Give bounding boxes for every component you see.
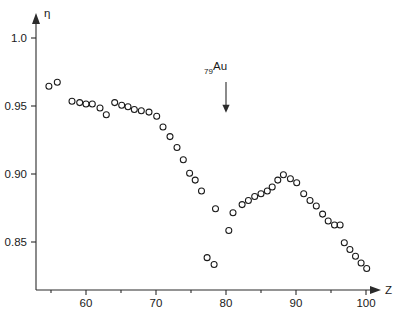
data-point [320,211,326,217]
y-axis-tick-label: 1.0 [11,32,27,44]
data-point [358,260,364,266]
data-point [341,240,347,246]
y-axis-arrowhead [32,13,40,24]
y-axis-tick-label: 0.95 [5,100,27,112]
data-point [46,83,52,89]
data-point [146,109,152,115]
data-point [138,108,144,114]
x-axis-tick-label: 60 [80,297,93,309]
data-point [131,106,137,112]
annotation-arrowhead [222,105,229,113]
data-point [97,105,103,111]
data-point [294,180,300,186]
data-point [112,100,118,106]
data-point [230,210,236,216]
data-point [347,246,353,252]
data-point [269,184,275,190]
data-point [275,177,281,183]
data-point [280,172,286,178]
x-axis-arrowhead [370,286,381,294]
data-point [154,113,160,119]
x-axis-title: Z [385,284,392,296]
data-point [125,104,131,110]
x-axis-tick-label: 90 [290,297,303,309]
annotation-label: Au [213,60,227,72]
x-axis-tick-label: 70 [150,297,163,309]
data-point [180,157,186,163]
data-point [119,102,125,108]
x-axis-tick-label: 100 [356,297,375,309]
data-point [187,170,193,176]
data-point [160,124,166,130]
data-point [258,191,264,197]
data-point [245,198,251,204]
data-point [211,261,217,267]
data-point [307,198,313,204]
data-point [301,191,307,197]
data-point [325,218,331,224]
data-point [204,255,210,261]
data-point [167,134,173,140]
x-axis-tick-label: 80 [220,297,233,309]
data-point [83,101,89,107]
data-point [199,188,205,194]
data-point [213,206,219,212]
data-point [89,101,95,107]
data-point [313,203,319,209]
data-point [69,98,75,104]
data-point [77,100,83,106]
chart-canvas: ηZ607080901000.850.900.951.079Au [0,0,399,314]
y-axis-tick-label: 0.85 [5,236,27,248]
data-point [226,227,232,233]
data-point [364,266,370,272]
y-axis-tick-label: 0.90 [5,168,27,180]
data-point [54,79,60,85]
data-point [353,253,359,259]
y-axis-title: η [44,7,50,19]
data-point [239,202,245,208]
data-point [174,144,180,150]
data-point [103,112,109,118]
data-point [252,193,258,199]
data-point [192,177,198,183]
eta-vs-z-scatter-chart: ηZ607080901000.850.900.951.079Au [0,0,399,314]
data-point [287,176,293,182]
